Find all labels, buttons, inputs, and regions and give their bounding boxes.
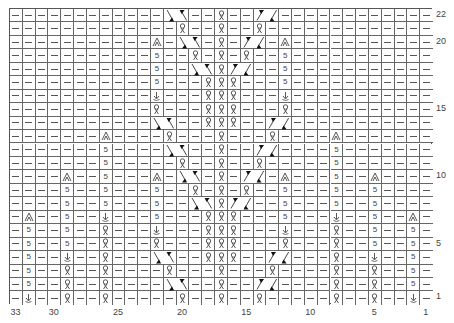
purl-stitch-cell [74,117,87,130]
purl-stitch-cell [331,49,344,62]
purl-stitch-cell [164,197,177,210]
purl-stitch-cell [125,103,138,116]
purl-stitch-cell [87,291,100,304]
purl-stitch-cell [100,117,113,130]
purl-stitch-cell [87,90,100,103]
purl-stitch-cell [48,224,61,237]
purl-stitch-cell [318,211,331,224]
five-stitch-symbol: 5 [279,76,292,89]
knit-tbl-icon [202,76,215,89]
purl-stitch-cell [395,63,408,76]
knit-tbl-icon [369,265,382,278]
five-stitch-symbol: 5 [61,238,74,251]
purl-stitch-cell [395,251,408,264]
purl-stitch-cell [36,265,49,278]
purl-stitch-cell [279,130,292,143]
five-stitch-symbol: 5 [407,224,420,237]
purl-stitch-cell [113,103,126,116]
knit-tbl-icon [177,22,190,35]
purl-stitch-cell [343,291,356,304]
knit-tbl-icon [215,238,228,251]
five-stitch-symbol: 5 [23,224,36,237]
purl-stitch-cell [356,224,369,237]
knit-tbl-icon [215,76,228,89]
purl-stitch-cell [318,238,331,251]
purl-stitch-cell [23,90,36,103]
purl-stitch-cell [74,251,87,264]
purl-stitch-cell [113,90,126,103]
knit-tbl-icon [331,278,344,291]
purl-stitch-cell [74,49,87,62]
purl-stitch-cell [228,9,241,22]
purl-stitch-cell [266,157,279,170]
purl-stitch-cell [87,103,100,116]
purl-stitch-cell [305,36,318,49]
knit-tbl-icon [215,36,228,49]
purl-stitch-cell [87,170,100,183]
left-cross-cable-icon [266,117,292,130]
purl-stitch-cell [61,157,74,170]
decrease-peak-icon [100,130,113,143]
purl-stitch-cell [420,76,433,89]
purl-stitch-cell [151,157,164,170]
purl-stitch-cell [23,144,36,157]
purl-stitch-cell [241,251,254,264]
purl-stitch-cell [292,36,305,49]
knit-tbl-icon [215,49,228,62]
purl-stitch-cell [138,49,151,62]
purl-stitch-cell [202,291,215,304]
purl-stitch-cell [318,224,331,237]
purl-stitch-cell [113,251,126,264]
down-arrow-icon [23,291,36,304]
purl-stitch-cell [87,197,100,210]
decrease-peak-icon [369,170,382,183]
purl-stitch-cell [395,22,408,35]
purl-stitch-cell [382,211,395,224]
purl-stitch-cell [36,103,49,116]
knit-tbl-icon [331,265,344,278]
knit-tbl-icon [215,63,228,76]
purl-stitch-cell [61,117,74,130]
purl-stitch-cell [36,22,49,35]
purl-stitch-cell [279,144,292,157]
purl-stitch-cell [138,144,151,157]
purl-stitch-cell [254,117,267,130]
purl-stitch-cell [407,90,420,103]
right-cross-cable-icon [177,170,203,183]
purl-stitch-cell [164,211,177,224]
purl-stitch-cell [48,63,61,76]
purl-stitch-cell [241,103,254,116]
purl-stitch-cell [420,22,433,35]
purl-stitch-cell [266,76,279,89]
purl-stitch-cell [241,9,254,22]
purl-stitch-cell [202,184,215,197]
purl-stitch-cell [74,170,87,183]
column-number-label: 33 [10,307,20,317]
purl-stitch-cell [48,9,61,22]
purl-stitch-cell [266,224,279,237]
purl-stitch-cell [254,63,267,76]
purl-stitch-cell [36,238,49,251]
right-cross-cable-icon [189,63,215,76]
purl-stitch-cell [343,278,356,291]
purl-stitch-cell [395,49,408,62]
purl-stitch-cell [164,291,177,304]
five-stitch-symbol: 5 [61,184,74,197]
purl-stitch-cell [23,49,36,62]
purl-stitch-cell [23,22,36,35]
purl-stitch-cell [356,197,369,210]
purl-stitch-cell [382,117,395,130]
purl-stitch-cell [36,117,49,130]
right-cross-cable-icon [164,278,190,291]
purl-stitch-cell [189,76,202,89]
purl-stitch-cell [138,103,151,116]
five-stitch-symbol: 5 [61,197,74,210]
purl-stitch-cell [177,251,190,264]
purl-stitch-cell [343,211,356,224]
knit-tbl-icon [215,211,228,224]
purl-stitch-cell [10,49,23,62]
purl-stitch-cell [292,238,305,251]
purl-stitch-cell [382,103,395,116]
purl-stitch-cell [356,184,369,197]
purl-stitch-cell [292,157,305,170]
